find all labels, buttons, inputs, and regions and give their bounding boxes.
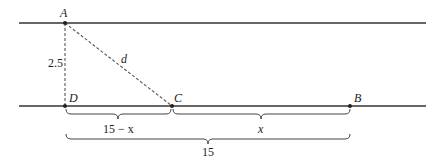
point-b bbox=[348, 104, 352, 108]
label-c: C bbox=[174, 91, 183, 105]
point-a bbox=[63, 21, 67, 25]
diagram-canvas: A D C B 2.5 d 15 − x x 15 bbox=[0, 0, 447, 164]
label-b: B bbox=[354, 91, 362, 105]
label-a: A bbox=[59, 6, 68, 20]
segment-ac bbox=[65, 23, 172, 106]
label-ad-length: 2.5 bbox=[48, 56, 63, 70]
brace-dc bbox=[66, 109, 171, 119]
brace-cb bbox=[173, 109, 350, 119]
label-brace-cb: x bbox=[257, 122, 264, 136]
label-d: D bbox=[68, 91, 78, 105]
label-ac-d: d bbox=[121, 52, 128, 66]
label-brace-dc: 15 − x bbox=[103, 122, 134, 136]
point-d bbox=[63, 104, 67, 108]
label-brace-db: 15 bbox=[202, 145, 214, 159]
